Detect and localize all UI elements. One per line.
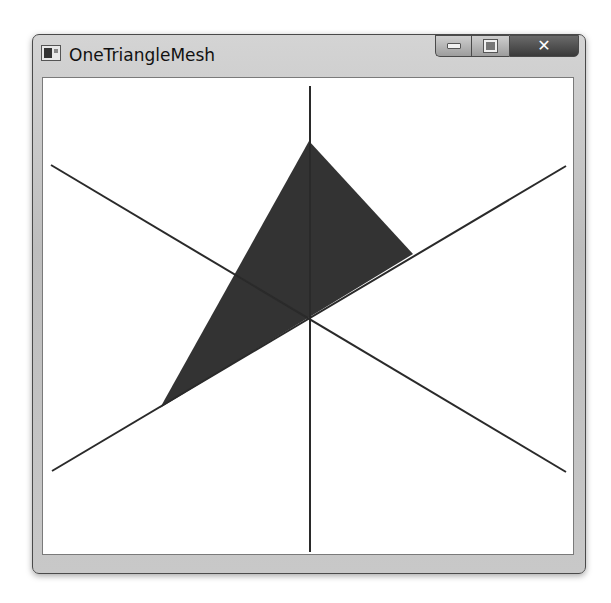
scene-canvas <box>0 0 611 603</box>
triangle-mesh <box>160 141 413 408</box>
